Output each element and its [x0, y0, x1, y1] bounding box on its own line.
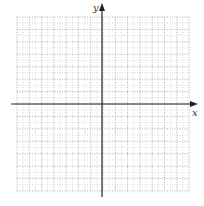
y-axis: [99, 3, 105, 197]
x-axis-label: x: [192, 107, 198, 118]
x-axis: [11, 101, 198, 107]
y-axis-label: y: [92, 2, 99, 13]
coordinate-plane: y x: [0, 0, 204, 206]
y-axis-arrow-icon: [99, 3, 105, 11]
